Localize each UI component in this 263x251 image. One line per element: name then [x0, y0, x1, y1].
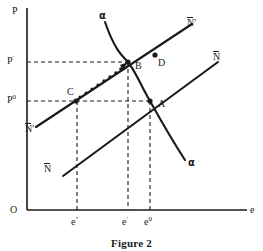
economics-diagram — [0, 0, 263, 251]
point-a-label: A — [158, 99, 165, 109]
y-tick-p-zero-sup: 0 — [13, 93, 17, 101]
n-bar-label-bottom-left: N — [44, 164, 51, 174]
point-c-marker — [73, 98, 78, 103]
alpha-curve — [105, 22, 185, 160]
point-d-marker — [152, 52, 157, 57]
point-a-marker — [147, 98, 152, 103]
figure-2-container: P e O P' P0 e" e' e0 α α N' N' N N A B C… — [0, 0, 263, 251]
x-axis-label: e — [250, 205, 254, 215]
y-axis-label: P — [12, 6, 18, 16]
x-tick-e-double-prime-sup: " — [75, 215, 78, 223]
n-bar-prime-label-top-right-sup: ' — [194, 17, 196, 28]
origin-label: O — [10, 205, 17, 215]
adjustment-path-c-to-b — [79, 62, 129, 99]
n-bar-label-top-right: N — [213, 52, 220, 62]
overbar — [213, 51, 219, 52]
axis-group — [27, 8, 247, 210]
n-bar-label-bottom-left-main: N — [44, 163, 51, 174]
alpha-curve-label-top: α — [99, 11, 106, 21]
point-b-marker — [125, 59, 130, 64]
n-bar-prime-label-top-right: N' — [187, 18, 196, 28]
n-bar-prime-label-bottom-left-main: N — [25, 123, 32, 134]
x-tick-e-zero-sup: 0 — [148, 215, 152, 223]
overbar — [187, 17, 193, 18]
point-b-label: B — [135, 61, 142, 71]
figure-caption: Figure 2 — [0, 237, 263, 249]
y-tick-p-zero: P0 — [7, 95, 16, 105]
point-markers-group — [73, 52, 157, 103]
x-tick-e-prime: e' — [122, 217, 128, 227]
point-d-label: D — [158, 58, 165, 68]
overbar — [44, 163, 50, 164]
n-bar-prime-label-bottom-left: N' — [25, 124, 34, 134]
x-tick-e-zero: e0 — [144, 217, 152, 227]
x-tick-e-prime-sup: ' — [126, 215, 127, 223]
y-tick-p-prime-sup: ' — [13, 54, 14, 62]
guide-lines-group — [27, 62, 150, 210]
n-bar-prime-label-top-right-main: N — [187, 17, 194, 28]
overbar — [25, 123, 31, 124]
x-tick-e-double-prime: e" — [71, 217, 78, 227]
point-c-label: C — [67, 87, 74, 97]
alpha-curve-label-bottom: α — [188, 158, 195, 168]
y-tick-p-prime: P' — [7, 56, 14, 66]
n-bar-label-top-right-main: N — [213, 51, 220, 62]
n-bar-prime-label-bottom-left-sup: ' — [32, 123, 34, 134]
n-bar-prime-curve — [36, 24, 192, 127]
